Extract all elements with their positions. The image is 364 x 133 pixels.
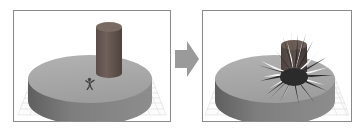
arrow-label <box>0 0 1 1</box>
right-arrow-icon <box>173 38 201 80</box>
disc-platform <box>28 55 152 121</box>
after-scene <box>203 11 351 121</box>
before-simulation-panel <box>13 10 171 122</box>
figure-caption <box>0 0 1 1</box>
after-panel-title <box>203 121 204 122</box>
transition-arrow <box>173 38 201 80</box>
before-scene <box>14 11 170 121</box>
before-panel-title <box>14 121 15 122</box>
standing-pillar <box>96 22 122 78</box>
after-simulation-panel <box>202 10 352 122</box>
figure-root <box>0 0 364 133</box>
